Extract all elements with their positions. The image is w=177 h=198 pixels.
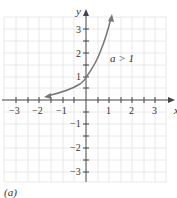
x-tick-label: −1 — [56, 105, 67, 116]
y-tick-label: 1 — [76, 71, 81, 82]
x-tick-label: 1 — [106, 105, 111, 116]
y-axis-label: y — [75, 5, 81, 17]
y-tick-label: 3 — [76, 24, 81, 35]
y-tick-label: −2 — [70, 142, 81, 153]
x-tick-label: 3 — [152, 105, 157, 116]
x-axis-arrow-icon — [168, 97, 175, 103]
curve-left-arrow-icon — [44, 93, 51, 99]
x-axis-label: x — [173, 104, 177, 116]
x-tick-label: −2 — [32, 105, 43, 116]
y-tick-label: −1 — [70, 118, 81, 129]
exponential-chart: −3 −2 −1 1 2 3 3 2 1 −1 −2 −3 y x a > 1 … — [0, 0, 177, 198]
y-tick-label: 2 — [76, 48, 81, 59]
x-tick-label: −3 — [9, 105, 20, 116]
x-tick-label: 2 — [129, 105, 134, 116]
curve-annotation: a > 1 — [110, 52, 134, 64]
y-axis-arrow-icon — [83, 9, 89, 16]
figure-caption: (a) — [4, 186, 17, 198]
y-tick-label: −3 — [70, 166, 81, 177]
